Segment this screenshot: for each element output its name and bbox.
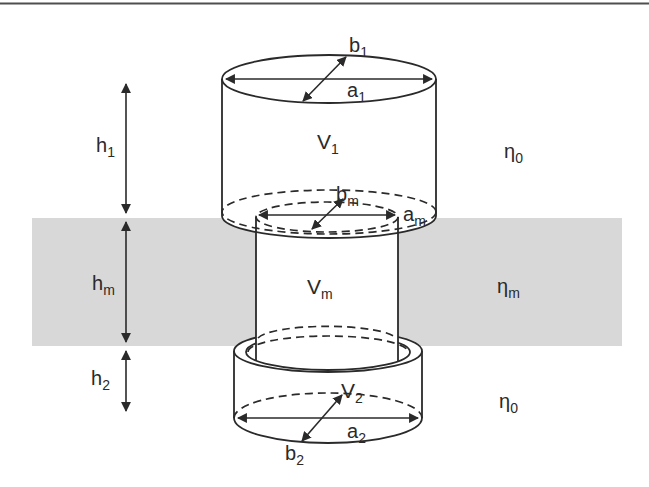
diagram-canvas: b1 a1 V1 η0 bm am Vm ηm V2 a2 b2 η0 h1 h… bbox=[0, 0, 649, 487]
label-h1: h1 bbox=[96, 134, 115, 160]
label-eta0-top: η0 bbox=[504, 140, 523, 166]
label-h2: h2 bbox=[91, 367, 110, 393]
label-eta0-bottom: η0 bbox=[499, 390, 518, 416]
figure-cylinder-membrane-diagram: b1 a1 V1 η0 bm am Vm ηm V2 a2 b2 η0 h1 h… bbox=[0, 0, 649, 487]
label-b2: b2 bbox=[285, 442, 304, 468]
